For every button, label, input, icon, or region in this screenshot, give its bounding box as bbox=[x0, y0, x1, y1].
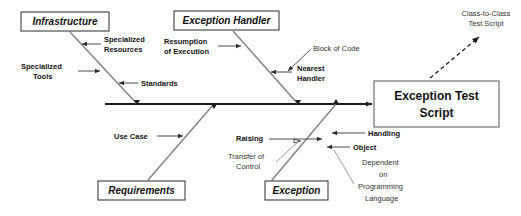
cause-specialized-tools-line2: Tools bbox=[33, 72, 52, 81]
cause-use-case-label: Use Case bbox=[114, 132, 148, 141]
cause-dependent-line3: Programming bbox=[358, 182, 403, 191]
cause-nearest-handler-line1: Nearest bbox=[297, 64, 325, 73]
cause-dependent-line2: on bbox=[379, 170, 387, 179]
cause-raising-label: Raising bbox=[236, 134, 264, 143]
category-label-infrastructure: Infrastructure bbox=[32, 16, 97, 27]
category-label-exception-handler: Exception Handler bbox=[183, 15, 272, 26]
cause-handling-label: Handling bbox=[368, 129, 400, 138]
effect-box-rect bbox=[374, 81, 499, 127]
cause-resumption-line2: of Execution bbox=[164, 47, 209, 56]
cause-specialized-resources-line1: Specialized bbox=[104, 35, 145, 44]
cause-dependent-line1: Dependent bbox=[362, 158, 400, 167]
effect-box: Exception Test Script bbox=[374, 81, 499, 127]
effect-label-line1: Exception Test bbox=[394, 89, 478, 103]
cause-object-label: Object bbox=[353, 143, 377, 152]
category-box-exception-handler: Exception Handler bbox=[174, 11, 279, 30]
cause-block-of-code-label: Block of Code bbox=[313, 44, 360, 53]
category-label-requirements: Requirements bbox=[108, 185, 175, 196]
effect-label-line2: Script bbox=[419, 106, 453, 120]
category-box-exception: Exception bbox=[265, 181, 328, 200]
category-box-requirements: Requirements bbox=[98, 181, 185, 200]
cause-specialized-resources-line2: Resources bbox=[104, 45, 142, 54]
cause-transfer-line1: Transfer of bbox=[228, 152, 265, 161]
category-box-infrastructure: Infrastructure bbox=[21, 12, 109, 31]
outcome-label-line1: Class-to-Class bbox=[462, 9, 511, 18]
fishbone-diagram: Exception Test Script Class-to-Class Tes… bbox=[0, 0, 521, 216]
cause-standards-label: Standards bbox=[141, 79, 178, 88]
outcome-label-line2: Test Script bbox=[468, 19, 504, 28]
cause-nearest-handler-line2: Handler bbox=[297, 74, 325, 83]
cause-specialized-tools-line1: Specialized bbox=[21, 62, 62, 71]
cause-dependent-line4: Language bbox=[365, 194, 398, 203]
cause-resumption-line1: Resumption bbox=[164, 37, 208, 46]
category-label-exception: Exception bbox=[273, 185, 321, 196]
cause-transfer-line2: Control bbox=[236, 162, 261, 171]
